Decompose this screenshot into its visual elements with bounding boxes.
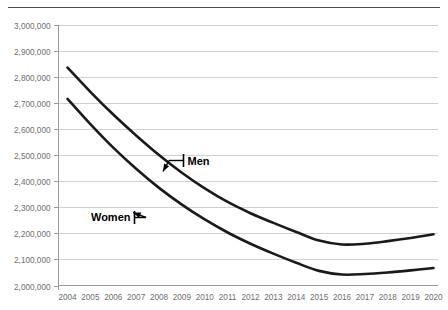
x-axis-tick-label: 2011: [219, 293, 237, 302]
y-axis-tick-label: 2,400,000: [14, 178, 51, 187]
series-callouts: MenWomen: [91, 154, 210, 224]
y-axis-ticks: [54, 26, 58, 287]
x-axis-tick-label: 2010: [196, 293, 215, 302]
x-axis-tick-label: 2009: [173, 293, 192, 302]
x-axis-tick-label: 2015: [310, 293, 329, 302]
x-axis-tick-label: 2018: [379, 293, 398, 302]
axis-lines: [58, 25, 438, 290]
callout-arrowhead: [132, 210, 141, 218]
gridlines: [58, 26, 438, 260]
y-axis-tick-label: 2,700,000: [14, 100, 51, 109]
x-axis-tick-label: 2013: [264, 293, 283, 302]
data-series: [68, 68, 434, 275]
y-axis-tick-label: 2,800,000: [14, 74, 51, 83]
callout-label-men: Men: [188, 155, 210, 167]
line-chart: 3,000,0002,900,0002,800,0002,700,0002,60…: [0, 0, 448, 310]
x-axis-tick-label: 2005: [81, 293, 100, 302]
y-axis-tick-label: 2,600,000: [14, 126, 51, 135]
x-axis-tick-label: 2006: [104, 293, 123, 302]
callout-arrowhead: [160, 164, 169, 173]
y-axis-tick-label: 2,500,000: [14, 152, 51, 161]
x-axis-tick-label: 2012: [241, 293, 260, 302]
x-axis-tick-label: 2008: [150, 293, 169, 302]
chart-container: 3,000,0002,900,0002,800,0002,700,0002,60…: [0, 0, 448, 310]
x-axis-labels: 2004200520062007200820092010201120122013…: [58, 293, 443, 302]
y-axis-tick-label: 2,100,000: [14, 256, 51, 265]
x-axis-tick-label: 2017: [356, 293, 375, 302]
x-axis-tick-label: 2004: [58, 293, 77, 302]
y-axis-tick-label: 2,000,000: [14, 283, 51, 292]
x-axis-tick-label: 2019: [402, 293, 421, 302]
y-axis-tick-label: 2,200,000: [14, 230, 51, 239]
series-line-women: [68, 99, 434, 275]
x-axis-tick-label: 2014: [287, 293, 306, 302]
y-axis-tick-label: 3,000,000: [14, 22, 51, 31]
y-axis-tick-label: 2,300,000: [14, 204, 51, 213]
y-axis-labels: 3,000,0002,900,0002,800,0002,700,0002,60…: [14, 22, 51, 292]
callout-label-women: Women: [91, 211, 131, 223]
x-axis-tick-label: 2016: [333, 293, 352, 302]
y-axis-tick-label: 2,900,000: [14, 48, 51, 57]
x-axis-tick-label: 2020: [424, 293, 443, 302]
x-axis-tick-label: 2007: [127, 293, 146, 302]
